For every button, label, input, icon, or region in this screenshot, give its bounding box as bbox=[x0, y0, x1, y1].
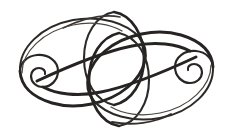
artwork-canvas: Interlaced Double-Scroll Flourish A hand… bbox=[0, 0, 231, 138]
ornamental-flourish-drawing: Interlaced Double-Scroll Flourish A hand… bbox=[0, 0, 231, 138]
